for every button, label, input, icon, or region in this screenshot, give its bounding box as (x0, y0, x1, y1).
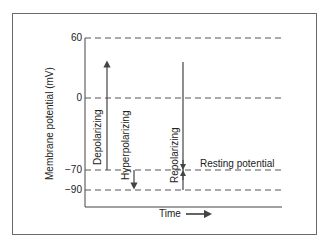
repolarizing-label: Repolarizing (169, 127, 180, 183)
y-axis-label: Membrane potential (mV) (44, 67, 55, 180)
y-tick-minus90: −90 (52, 185, 82, 195)
y-tick-0: 0 (52, 93, 82, 103)
resting-potential-label: Resting potential (200, 159, 275, 169)
depolarizing-label: Depolarizing (92, 109, 103, 165)
hyperpolarizing-label: Hyperpolarizing (120, 111, 131, 180)
y-tick-minus70: −70 (52, 165, 82, 175)
x-axis-label: Time (159, 209, 181, 219)
y-tick-60: 60 (52, 33, 82, 43)
